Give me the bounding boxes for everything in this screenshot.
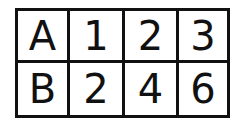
cell-a-1: 1 <box>70 11 125 63</box>
cell-b-2: 4 <box>125 63 179 115</box>
row-label-b: B <box>18 63 70 115</box>
hand-drawn-table: A 1 2 3 B 2 4 6 <box>15 8 230 118</box>
row-label-a: A <box>18 11 70 63</box>
cell-a-2: 2 <box>125 11 179 63</box>
cell-b-3: 6 <box>179 63 227 115</box>
cell-a-3: 3 <box>179 11 227 63</box>
cell-b-1: 2 <box>70 63 125 115</box>
